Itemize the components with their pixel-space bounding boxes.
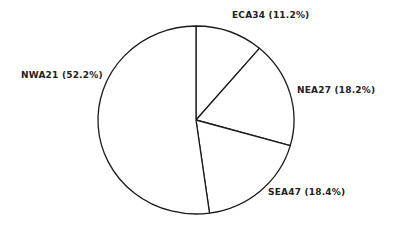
label-nwa21: NWA21 (52.2%) [21,70,103,80]
pie-slice-nwa21 [98,26,210,214]
label-sea47: SEA47 (18.4%) [268,187,345,197]
label-eca34: ECA34 (11.2%) [232,10,309,20]
label-nea27: NEA27 (18.2%) [297,85,375,95]
pie-slices [98,26,294,214]
